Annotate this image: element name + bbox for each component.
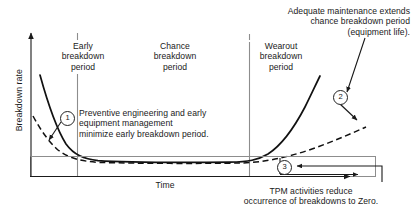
callout-1-text: Preventive engineering and early equipme… <box>79 108 239 139</box>
figure-canvas: Breakdown rate Time Early breakdown peri… <box>0 0 412 212</box>
x-axis-label: Time <box>140 180 190 190</box>
callout-badge-3: 3 <box>277 160 292 175</box>
y-axis-label: Breakdown rate <box>14 60 24 140</box>
region-label-early-breakdown-period: Early breakdown period <box>52 41 114 72</box>
region-label-wearout-breakdown-period: Wearout breakdown period <box>250 41 312 72</box>
region-label-chance-breakdown-period: Chance breakdown period <box>141 41 209 72</box>
callout-2-leader <box>340 38 365 120</box>
callout-3-text: TPM activities reduce occurrence of brea… <box>210 186 412 207</box>
callout-2-text: Adequate maintenance extends chance brea… <box>232 6 410 37</box>
callout-badge-1: 1 <box>60 111 75 126</box>
callout-3-leader <box>280 158 382 182</box>
callout-badge-2: 2 <box>333 90 348 105</box>
